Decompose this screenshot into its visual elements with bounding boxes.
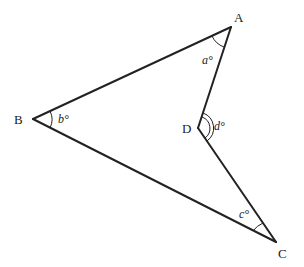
angle-label-c: c°	[239, 207, 249, 221]
vertex-label-c: C	[278, 246, 287, 261]
angle-arc-b	[50, 111, 52, 128]
angle-arc-c	[253, 223, 263, 231]
angle-label-d: d°	[214, 119, 225, 133]
geometry-diagram: A B C D a° b° c° d°	[0, 0, 304, 267]
edge-bc	[33, 119, 276, 242]
vertex-label-d: D	[182, 121, 191, 136]
angle-label-b: b°	[58, 112, 69, 126]
vertex-label-b: B	[14, 112, 23, 127]
edge-cd	[198, 128, 276, 242]
edge-da	[198, 27, 231, 128]
vertex-label-a: A	[234, 10, 244, 25]
angle-label-a: a°	[202, 53, 213, 67]
angle-arc-a	[212, 36, 224, 47]
edge-ab	[33, 27, 231, 119]
